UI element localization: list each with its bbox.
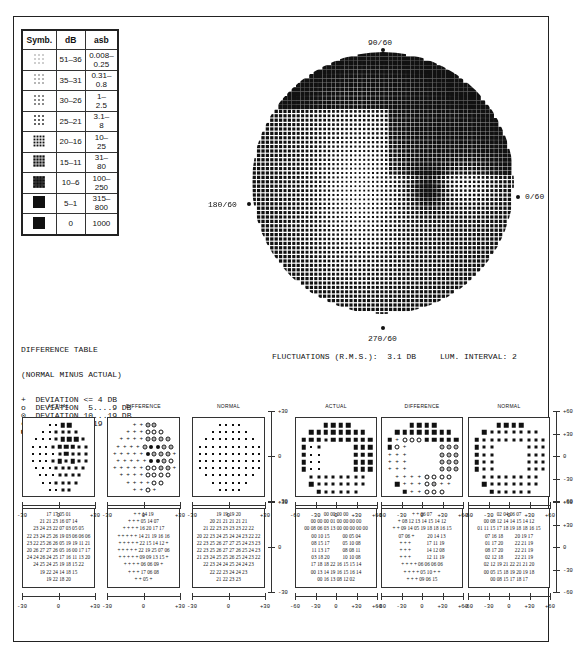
- grid-point-icon: [149, 459, 153, 463]
- density-5-icon: [22, 132, 56, 153]
- grid-point-icon: [225, 482, 227, 484]
- symbol-legend-table: Symb. dB asb 51–360.008– 0.2535–310.31– …: [21, 29, 119, 236]
- x-axis: -60-300+30+60: [295, 596, 377, 597]
- grid-point-icon: +: [133, 451, 137, 457]
- legend-header-db: dB: [56, 30, 85, 50]
- grid-point-icon: [162, 444, 167, 449]
- grid-point-icon: +: [133, 487, 137, 493]
- grid-point-icon: +: [116, 458, 120, 464]
- axis-label-left: 180/60: [208, 200, 237, 209]
- grid-point-icon: +: [120, 472, 124, 478]
- grid-point-icon: [439, 430, 444, 435]
- grid-point-icon: [32, 460, 34, 462]
- grid-point-icon: [368, 460, 373, 465]
- grid-point-icon: [301, 460, 306, 465]
- grid-point-icon: [68, 481, 71, 484]
- legend-row: 51–360.008– 0.25: [22, 50, 118, 71]
- value-row: + + 05 +: [108, 576, 179, 583]
- grid-point-icon: [225, 460, 227, 462]
- x-axis-tick: [192, 502, 193, 509]
- grid-point-icon: [45, 453, 47, 455]
- grid-point-icon: [417, 423, 422, 428]
- value-row: 02 12 18 22 21 19: [469, 554, 549, 561]
- grid-point-icon: [447, 438, 452, 443]
- difference-symbol-grid: ++++++++++++++++++++++: [381, 417, 463, 497]
- grid-point-icon: [527, 461, 530, 464]
- grid-point-icon: [32, 446, 34, 448]
- grid-point-icon: [238, 489, 240, 491]
- x-axis-tick-label: 0: [334, 603, 337, 610]
- grid-point-icon: [51, 445, 54, 448]
- grid-point-icon: [162, 459, 167, 464]
- value-row: 22 23 24 25 26 19 03 06 06 06: [23, 533, 94, 540]
- y-axis: +60+300-30-60: [556, 411, 557, 501]
- grid-point-icon: [245, 438, 247, 440]
- grid-point-icon: [225, 431, 227, 433]
- grid-point-icon: [542, 438, 545, 441]
- grid-point-icon: [534, 475, 537, 478]
- grid-point-icon: [490, 461, 493, 464]
- grid-point-icon: [68, 431, 71, 434]
- value-row: 07 16 18 20 19 17: [469, 533, 549, 540]
- grid-point-icon: +: [139, 429, 143, 435]
- grid-point-icon: [338, 438, 343, 443]
- grid-point-icon: [324, 438, 327, 441]
- grid-point-icon: [402, 437, 407, 442]
- grid-point-icon: [225, 438, 227, 440]
- grid-point-icon: [534, 461, 537, 464]
- grid-point-icon: [338, 430, 343, 435]
- grid-point-icon: +: [153, 487, 157, 493]
- grid-point-icon: [49, 489, 51, 491]
- grid-point-icon: +: [403, 481, 407, 487]
- grid-point-icon: [368, 445, 373, 450]
- legend-row: 30–261– 2.5: [22, 91, 118, 112]
- grid-point-icon: [346, 430, 351, 435]
- grid-point-icon: +: [126, 472, 130, 478]
- grid-point-icon: [75, 481, 78, 484]
- grid-point-icon: [42, 431, 44, 433]
- legend-db: 20–16: [56, 132, 85, 153]
- x-axis-tick: [550, 502, 551, 509]
- grid-point-icon: [332, 490, 335, 493]
- grid-point-icon: +: [447, 481, 451, 487]
- grid-point-icon: [212, 467, 214, 469]
- grid-point-icon: [71, 474, 74, 477]
- grid-point-icon: [324, 475, 327, 478]
- x-axis-tick-label: -30: [17, 512, 27, 519]
- grid-point-icon: [368, 452, 373, 457]
- grid-point-icon: [339, 483, 342, 486]
- legend-asb: 1– 2.5: [85, 91, 118, 112]
- grid-point-icon: [361, 452, 366, 457]
- grid-point-icon: [219, 460, 221, 462]
- panel-title: ACTUAL: [295, 403, 377, 409]
- grid-point-icon: [245, 467, 247, 469]
- value-row: + + + + + 22 15 14 12 +: [108, 540, 179, 547]
- y-axis-tick-label: +30: [278, 499, 288, 506]
- grid-point-icon: [81, 438, 84, 441]
- grid-point-icon: [331, 438, 336, 443]
- grid-point-icon: [252, 446, 254, 448]
- grid-point-icon: [310, 468, 312, 470]
- grid-point-icon: [490, 438, 493, 441]
- grid-point-icon: [368, 467, 373, 472]
- x-axis-tick-label: 0: [420, 603, 423, 610]
- grid-point-icon: +: [172, 465, 176, 471]
- grid-point-icon: [424, 482, 429, 487]
- grid-point-icon: [232, 424, 234, 426]
- grid-point-icon: [232, 489, 234, 491]
- y-axis-tick-label: 0: [563, 544, 566, 551]
- grid-point-icon: [219, 446, 221, 448]
- x-axis-tick-label: +30: [175, 603, 185, 610]
- x-axis-tick: [381, 593, 382, 600]
- x-axis-tick-label: 0: [507, 512, 510, 519]
- grid-point-icon: [232, 460, 234, 462]
- grid-point-icon: [225, 424, 227, 426]
- x-axis-tick: [22, 502, 23, 509]
- grid-point-icon: [534, 438, 537, 441]
- grid-point-icon: [483, 475, 486, 478]
- grid-point-icon: [520, 483, 523, 486]
- value-row: 01 11 15 17 18 19 18 18 16 15: [469, 525, 549, 532]
- grid-point-icon: [520, 475, 523, 478]
- grid-point-icon: [542, 446, 545, 449]
- y-axis-tick-label: -30: [278, 589, 288, 596]
